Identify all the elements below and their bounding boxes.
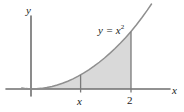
x-tick-label-2: 2 (127, 95, 133, 106)
parabola-plot-svg (0, 0, 184, 112)
x-tick-label-x: x (77, 96, 82, 107)
curve-equation-label: y = x2 (98, 25, 124, 36)
curve-equation-base: y = x (98, 24, 121, 36)
x-axis-label: x (172, 85, 177, 96)
curve-equation-exponent: 2 (121, 23, 125, 31)
figure-area-under-parabola: y x x 2 y = x2 (0, 0, 184, 112)
y-axis-label: y (26, 5, 31, 16)
